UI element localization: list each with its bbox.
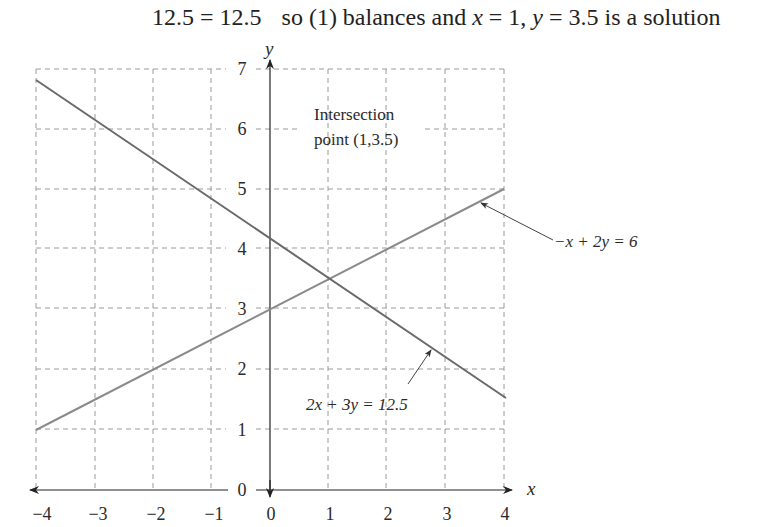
y-tick-0: 0 bbox=[238, 480, 247, 500]
x-tick-0: 0 bbox=[267, 504, 276, 524]
y-tick-labels: 0 1 2 3 4 5 6 7 bbox=[238, 59, 247, 500]
y-axis-label: y bbox=[263, 38, 274, 59]
intersection-label-line1: Intersection bbox=[314, 105, 395, 124]
x-tick-labels: −4 −3 −2 −1 0 1 2 3 4 bbox=[32, 504, 509, 524]
annotation-arrow-line2 bbox=[408, 350, 431, 384]
x-tick-4: 4 bbox=[501, 504, 510, 524]
y-tick-5: 5 bbox=[238, 179, 247, 199]
x-tick-2: 2 bbox=[384, 504, 393, 524]
y-tick-3: 3 bbox=[238, 299, 247, 319]
y-tick-2: 2 bbox=[238, 359, 247, 379]
intersection-label-line2: point (1,3.5) bbox=[314, 130, 399, 149]
annotation-arrow-line1 bbox=[481, 203, 553, 240]
x-tick-neg1: −1 bbox=[204, 504, 223, 524]
y-tick-7: 7 bbox=[238, 59, 247, 79]
line2-equation-label: 2x + 3y = 12.5 bbox=[306, 395, 408, 414]
chart: 0 1 2 3 4 5 6 7 −4 −3 −2 −1 0 1 2 3 4 x … bbox=[0, 0, 761, 527]
x-tick-3: 3 bbox=[443, 504, 452, 524]
y-tick-4: 4 bbox=[238, 239, 247, 259]
x-tick-neg4: −4 bbox=[32, 504, 51, 524]
x-tick-neg3: −3 bbox=[88, 504, 107, 524]
y-tick-1: 1 bbox=[238, 420, 247, 440]
line1-equation-label: −x + 2y = 6 bbox=[554, 232, 638, 251]
x-axis-label: x bbox=[526, 478, 536, 499]
x-tick-neg2: −2 bbox=[146, 504, 165, 524]
line-2x-plus-3y-eq-12-5 bbox=[36, 80, 506, 398]
y-tick-6: 6 bbox=[238, 119, 247, 139]
x-tick-1: 1 bbox=[326, 504, 335, 524]
